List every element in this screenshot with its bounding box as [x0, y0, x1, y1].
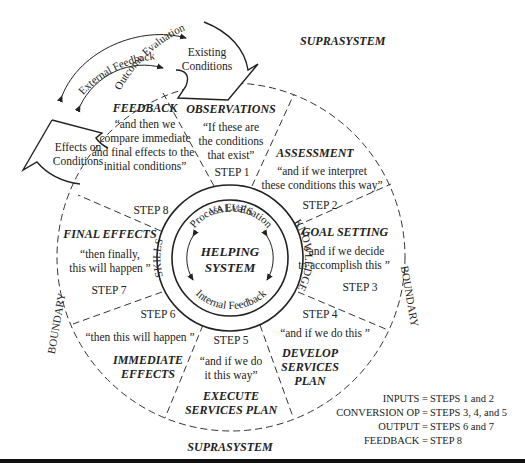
step-4-sector: STEP 4 “and if we do this ” DEVELOP SERV… — [280, 308, 370, 388]
step-6-sector: STEP 6 “then this will happen ” IMMEDIAT… — [85, 308, 194, 381]
step-5-name-line2: SERVICES PLAN — [185, 403, 278, 417]
step-2-sector: ASSESSMENT “and if we interpret these co… — [261, 146, 382, 211]
step-1-sector: OBSERVATIONS “If these are the condition… — [186, 102, 276, 178]
step-2-quote-line2: these conditions this way” — [261, 179, 382, 192]
legend-key: CONVERSION OP = — [318, 406, 428, 420]
step-5-quote-line2: it this way” — [204, 369, 257, 382]
step-2-quote-line1: “and if we interpret — [277, 165, 368, 178]
step-4-name-line3: PLAN — [294, 374, 327, 388]
legend-row-conversion: CONVERSION OP =STEPS 3, 4, and 5 — [318, 406, 518, 420]
legend-key: FEEDBACK = — [318, 434, 428, 448]
step-3-quote-line2: to accomplish this ” — [298, 259, 390, 272]
step-3-sector: GOAL SETTING “and if we decide to accomp… — [298, 225, 390, 293]
suprasystem-bottom-label: SUPRASYSTEM — [187, 440, 273, 454]
step-6-quote-line1: “then this will happen ” — [85, 331, 194, 344]
bottom-rule — [0, 459, 525, 463]
step-6-name-line1: IMMEDIATE — [112, 353, 183, 367]
step-4-name-line1: DEVELOP — [281, 346, 339, 360]
step-5-label: STEP 5 — [213, 334, 248, 346]
step-1-quote-line3: that exist” — [208, 149, 255, 161]
suprasystem-top-label: SUPRASYSTEM — [300, 34, 386, 48]
step-5-name-line1: EXECUTE — [202, 389, 259, 403]
legend-row-feedback: FEEDBACK =STEP 8 — [318, 434, 518, 448]
step-1-quote-line2: the conditions — [199, 135, 264, 147]
legend-value: STEPS 1 and 2 — [428, 392, 494, 406]
step-7-quote-line2: this will happen ” — [69, 262, 150, 275]
legend-row-output: OUTPUT =STEPS 6 and 7 — [318, 420, 518, 434]
legend-value: STEPS 6 and 7 — [428, 420, 494, 434]
step-7-label: STEP 7 — [91, 284, 126, 296]
step-5-sector: STEP 5 “and if we do it this way” EXECUT… — [185, 334, 278, 417]
step-1-name: OBSERVATIONS — [186, 102, 276, 116]
step-4-name-line2: SERVICES — [281, 360, 339, 374]
outcome-evaluation-label: Outcome Evaluation — [112, 21, 187, 92]
legend-value: STEPS 3, 4, and 5 — [428, 406, 507, 420]
step-3-name: GOAL SETTING — [302, 225, 389, 239]
boundary-right-label: BOUNDARY — [399, 265, 422, 328]
legend-key: OUTPUT = — [318, 420, 428, 434]
effects-on-conditions-arrow — [23, 86, 107, 122]
legend-row-inputs: INPUTS =STEPS 1 and 2 — [318, 392, 518, 406]
existing-conditions-line1: Existing — [188, 46, 227, 59]
step-2-label: STEP 2 — [302, 199, 337, 211]
step-8-quote-line2: compare immediate — [99, 132, 190, 145]
step-2-name: ASSESSMENT — [275, 146, 354, 160]
core-title-line1: HELPING — [200, 244, 260, 259]
step-6-label: STEP 6 — [140, 308, 175, 320]
step-5-quote-line1: “and if we do — [200, 355, 263, 367]
existing-conditions-line2: Conditions — [182, 60, 233, 72]
step-8-label: STEP 8 — [133, 204, 168, 216]
boundary-left-label: BOUNDARY — [45, 292, 68, 355]
step-7-name: FINAL EFFECTS — [62, 227, 157, 241]
step-8-sector: FEEDBACK “and then we compare immediate … — [92, 101, 195, 216]
step-8-quote-line3: and final effects to the — [92, 146, 195, 158]
legend-key: INPUTS = — [318, 392, 428, 406]
step-8-quote-line1: “and then we — [115, 118, 176, 130]
legend: INPUTS =STEPS 1 and 2 CONVERSION OP =STE… — [318, 392, 518, 448]
step-1-quote-line1: “If these are — [203, 121, 259, 133]
step-7-quote-line1: “then finally, — [80, 248, 140, 261]
external-feedback-label: External Feedback — [76, 49, 156, 96]
step-3-label: STEP 3 — [342, 281, 377, 293]
legend-value: STEP 8 — [428, 434, 462, 448]
step-3-quote-line1: “and if we decide — [304, 245, 385, 257]
core-title-line2: SYSTEM — [205, 260, 256, 275]
step-6-name-line2: EFFECTS — [120, 367, 175, 381]
step-8-name: FEEDBACK — [112, 101, 179, 115]
step-1-label: STEP 1 — [214, 166, 249, 178]
step-4-label: STEP 4 — [302, 308, 337, 320]
step-7-sector: FINAL EFFECTS “then finally, this will h… — [62, 227, 157, 296]
step-8-quote-line4: initial conditions” — [104, 160, 187, 172]
step-4-quote-line1: “and if we do this ” — [280, 327, 370, 339]
